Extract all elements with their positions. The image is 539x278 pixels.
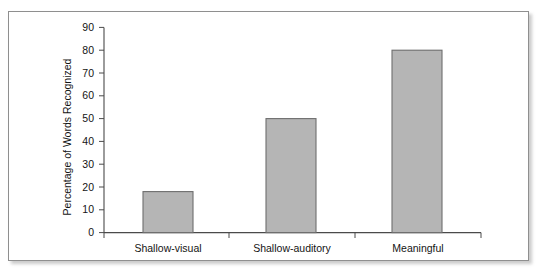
figure-frame: Percentage of Words Recognized 90 80 70 …	[8, 11, 529, 261]
x-tick-label-shallow-visual: Shallow-visual	[134, 242, 201, 254]
y-tick-label-80: 80	[82, 44, 94, 56]
y-tick-label-50: 50	[82, 112, 94, 124]
chart-svg: Percentage of Words Recognized 90 80 70 …	[9, 12, 528, 260]
bar-meaningful[interactable]	[392, 50, 442, 232]
y-tick-label-40: 40	[82, 135, 94, 147]
bar-shallow-visual[interactable]	[143, 192, 193, 233]
bar-shallow-auditory[interactable]	[266, 119, 316, 233]
y-tick-label-60: 60	[82, 89, 94, 101]
x-tick-label-shallow-auditory: Shallow-auditory	[253, 242, 331, 254]
y-axis-title: Percentage of Words Recognized	[61, 58, 73, 215]
y-tick-label-20: 20	[82, 181, 94, 193]
y-tick-label-30: 30	[82, 158, 94, 170]
y-tick-label-90: 90	[82, 21, 94, 33]
y-tick-label-10: 10	[82, 203, 94, 215]
x-tick-label-meaningful: Meaningful	[392, 242, 443, 254]
bar-chart: Percentage of Words Recognized 90 80 70 …	[9, 12, 528, 260]
y-tick-label-0: 0	[88, 226, 94, 238]
y-tick-label-70: 70	[82, 67, 94, 79]
